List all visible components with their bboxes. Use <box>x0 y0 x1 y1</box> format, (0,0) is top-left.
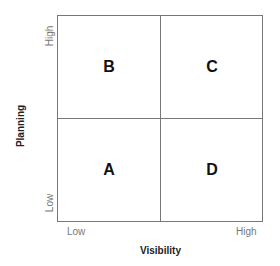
quadrant-bottom-left: A <box>58 119 160 221</box>
quadrant-top-right: C <box>161 16 263 118</box>
x-axis-high-label: High <box>236 226 257 237</box>
quadrant-bottom-right: D <box>161 119 263 221</box>
x-axis-low-label: Low <box>67 226 85 237</box>
quadrant-grid: B C A D <box>57 15 263 222</box>
quadrant-label-d: D <box>206 161 218 179</box>
y-axis-high-label: High <box>44 26 55 47</box>
y-axis-title: Planning <box>15 105 26 147</box>
x-axis-title: Visibility <box>140 245 181 256</box>
quadrant-label-b: B <box>103 58 115 76</box>
quadrant-label-a: A <box>103 161 115 179</box>
quadrant-top-left: B <box>58 16 160 118</box>
y-axis-low-label: Low <box>44 194 55 212</box>
quadrant-label-c: C <box>206 58 218 76</box>
